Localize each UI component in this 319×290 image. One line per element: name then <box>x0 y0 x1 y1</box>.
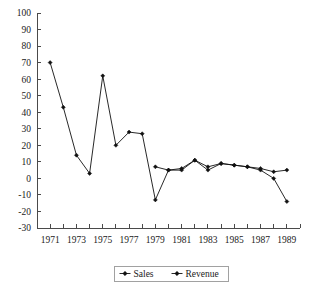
x-tick-label: 1983 <box>198 235 217 245</box>
y-tick-label: 0 <box>26 174 31 184</box>
x-axis-tick-marks <box>37 224 300 228</box>
y-tick-label: 50 <box>22 91 32 101</box>
data-point-marker <box>206 165 210 169</box>
data-point-marker <box>245 165 249 169</box>
y-tick-label: 60 <box>22 75 32 85</box>
y-tick-label: 30 <box>22 124 32 134</box>
y-tick-label: -30 <box>18 223 31 233</box>
y-tick-label: 40 <box>22 108 32 118</box>
x-tick-label: 1989 <box>277 235 296 245</box>
series-line <box>50 63 287 202</box>
data-point-marker <box>140 132 144 136</box>
data-point-marker <box>272 170 276 174</box>
y-tick-label: -20 <box>18 207 31 217</box>
data-point-marker <box>153 165 157 169</box>
y-axis-tick-labels: -30-20-100102030405060708090100 <box>17 8 32 233</box>
x-tick-label: 1977 <box>120 235 139 245</box>
y-tick-label: 70 <box>22 58 32 68</box>
x-tick-label: 1987 <box>251 235 270 245</box>
x-tick-label: 1971 <box>41 235 60 245</box>
data-point-marker <box>219 162 223 166</box>
data-point-marker <box>285 168 289 172</box>
series-revenue <box>153 158 289 174</box>
data-point-marker <box>61 105 65 109</box>
x-tick-label: 1973 <box>67 235 86 245</box>
data-point-marker <box>232 163 236 167</box>
x-tick-label: 1981 <box>172 235 191 245</box>
x-tick-label: 1975 <box>93 235 112 245</box>
data-point-marker <box>48 61 52 65</box>
data-series-group <box>48 61 289 204</box>
x-axis-tick-labels: 1971197319751977197919811983198519871989 <box>41 235 297 245</box>
y-axis-tick-marks <box>37 13 41 228</box>
y-tick-label: 80 <box>22 41 32 51</box>
x-tick-label: 1979 <box>146 235 165 245</box>
legend-label-sales: Sales <box>134 269 154 279</box>
line-chart: -30-20-100102030405060708090100 19711973… <box>0 0 319 290</box>
y-tick-label: 100 <box>17 8 32 18</box>
legend-label-revenue: Revenue <box>186 269 219 279</box>
y-tick-label: 20 <box>22 141 32 151</box>
y-tick-label: 90 <box>22 25 32 35</box>
series-sales <box>48 61 289 204</box>
chart-container: -30-20-100102030405060708090100 19711973… <box>0 0 319 290</box>
data-point-marker <box>101 74 105 78</box>
y-tick-label: -10 <box>18 190 31 200</box>
chart-legend: SalesRevenue <box>115 266 229 281</box>
y-tick-label: 10 <box>22 157 32 167</box>
data-point-marker <box>167 168 171 172</box>
data-point-marker <box>285 200 289 204</box>
x-tick-label: 1985 <box>225 235 244 245</box>
data-point-marker <box>153 198 157 202</box>
